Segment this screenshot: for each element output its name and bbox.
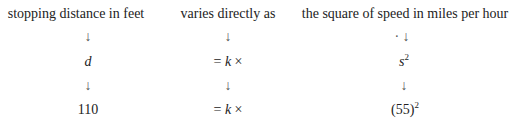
times-sign: × xyxy=(231,54,242,69)
exponent: 2 xyxy=(414,100,419,110)
header-stopping-distance: stopping distance in feet xyxy=(8,6,144,22)
equals-sign: = xyxy=(213,102,224,117)
value-55-squared: (55)2 xyxy=(391,102,419,118)
equals-sign: = xyxy=(213,54,224,69)
symbol-d: d xyxy=(85,54,92,70)
down-arrow-icon: ↓ xyxy=(225,78,232,94)
down-arrow-icon: ↓ xyxy=(225,29,232,45)
down-arrow-icon: ↓ xyxy=(85,78,92,94)
times-sign: × xyxy=(231,102,242,117)
header-varies-directly: varies directly as xyxy=(181,6,276,22)
header-square-of-speed: the square of speed in miles per hour xyxy=(302,6,508,22)
equals-k-times: = k × xyxy=(213,102,242,118)
symbol-s-squared: s2 xyxy=(399,54,409,70)
value-55: (55) xyxy=(391,102,414,117)
down-arrow-icon: ↓ xyxy=(85,29,92,45)
down-arrow-icon: · ↓ xyxy=(394,29,409,45)
exponent: 2 xyxy=(404,52,409,62)
value-110: 110 xyxy=(78,102,98,118)
equals-k-times: = k × xyxy=(213,54,242,70)
down-arrow-icon: ↓ xyxy=(401,78,408,94)
